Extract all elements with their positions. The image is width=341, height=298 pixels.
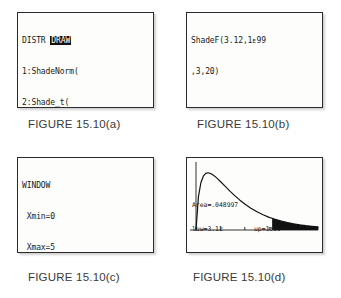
figure-panel-c: WINDOW Xmin=0 Xmax=5 Xscl=1 Ymin=⁻.3 Yma… xyxy=(17,157,154,253)
calculator-screen-home-command: ShadeF(3.12,1ᴇ99 ,3,20) xyxy=(186,12,323,108)
calculator-screen-window-settings: WINDOW Xmin=0 Xmax=5 Xscl=1 Ymin=⁻.3 Yma… xyxy=(17,157,154,253)
window-title: WINDOW xyxy=(22,181,153,191)
caption-figure-a: FIGURE 15.10(a) xyxy=(28,118,120,130)
menu-tab-distr[interactable]: DISTR xyxy=(22,36,46,45)
graph-readout-labels: Area=.048997 low=3.12up=1ᴇ99 xyxy=(192,185,316,249)
command-text-pre: ShadeF(3.12,1 xyxy=(191,36,252,45)
menu-tab-draw[interactable]: DRAW xyxy=(50,36,71,45)
window-setting-xmax[interactable]: Xmax=5 xyxy=(22,243,153,253)
menu-item-shade-t[interactable]: 2:Shade_t( xyxy=(22,98,153,108)
caption-figure-b: FIGURE 15.10(b) xyxy=(197,118,289,130)
figure-panel-b: ShadeF(3.12,1ᴇ99 ,3,20) xyxy=(186,12,323,108)
figure-panel-a: DISTR DRAW 1:ShadeNorm( 2:Shade_t( 3:Sha… xyxy=(17,12,154,108)
up-bound-pre: up=1 xyxy=(254,225,269,233)
menu-item-shadenorm[interactable]: 1:ShadeNorm( xyxy=(22,67,153,77)
figure-grid: DISTR DRAW 1:ShadeNorm( 2:Shade_t( 3:Sha… xyxy=(0,0,341,298)
menu-item-label: ShadeNorm( xyxy=(31,67,78,76)
up-bound-post: 99 xyxy=(273,225,281,233)
up-bound-readout: up=1ᴇ99 xyxy=(254,225,281,233)
caption-figure-d: FIGURE 15.10(d) xyxy=(193,271,285,283)
setting-name: Xmin xyxy=(27,212,46,221)
menu-item-label: Shade_t( xyxy=(31,98,69,107)
command-line-2: ,3,20) xyxy=(191,67,322,77)
calculator-screen-graph: Area=.048997 low=3.12up=1ᴇ99 xyxy=(186,157,323,253)
figure-panel-d: Area=.048997 low=3.12up=1ᴇ99 xyxy=(186,157,323,253)
home-screen-text: ShadeF(3.12,1ᴇ99 ,3,20) xyxy=(187,13,322,98)
command-text-post: 99 xyxy=(256,36,265,45)
menu-header-row: DISTR DRAW xyxy=(22,36,153,46)
caption-figure-c: FIGURE 15.10(c) xyxy=(28,271,120,283)
window-setting-xmin[interactable]: Xmin=0 xyxy=(22,212,153,222)
command-line-1: ShadeF(3.12,1ᴇ99 xyxy=(191,36,322,46)
distr-draw-menu-text: DISTR DRAW 1:ShadeNorm( 2:Shade_t( 3:Sha… xyxy=(18,13,153,108)
window-settings-text: WINDOW Xmin=0 Xmax=5 Xscl=1 Ymin=⁻.3 Yma… xyxy=(18,158,153,253)
setting-value: 5 xyxy=(50,243,55,252)
setting-value: 0 xyxy=(50,212,55,221)
setting-name: Xmax xyxy=(27,243,46,252)
low-bound-readout: low=3.12 xyxy=(192,225,223,233)
calculator-screen-distr-draw-menu: DISTR DRAW 1:ShadeNorm( 2:Shade_t( 3:Sha… xyxy=(17,12,154,108)
bounds-readout: low=3.12up=1ᴇ99 xyxy=(192,225,316,233)
area-readout: Area=.048997 xyxy=(192,201,316,209)
